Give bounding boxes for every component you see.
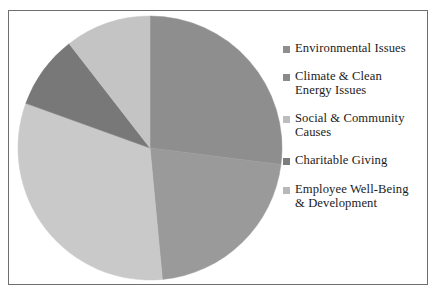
legend-item[interactable]: Social & Community Causes: [283, 111, 433, 139]
legend-item-label: Environmental Issues: [295, 41, 406, 55]
legend-item[interactable]: Climate & Clean Energy Issues: [283, 69, 433, 97]
pie-chart-plot-area: [9, 11, 279, 284]
pie-slice[interactable]: [150, 148, 281, 279]
legend-swatch-icon: [283, 158, 290, 165]
legend-item[interactable]: Charitable Giving: [283, 153, 433, 167]
pie-slice[interactable]: [150, 16, 282, 165]
legend-item[interactable]: Environmental Issues: [283, 41, 433, 55]
legend-swatch-icon: [283, 74, 290, 81]
legend-item-label: Employee Well-Being & Development: [295, 182, 409, 210]
legend-item-label: Social & Community Causes: [295, 111, 405, 139]
legend-swatch-icon: [283, 46, 290, 53]
legend-item-label: Charitable Giving: [295, 153, 387, 167]
chart-legend: Environmental IssuesClimate & Clean Ener…: [283, 41, 433, 224]
legend-swatch-icon: [283, 187, 290, 194]
legend-item[interactable]: Employee Well-Being & Development: [283, 182, 433, 210]
legend-item-label: Climate & Clean Energy Issues: [295, 69, 382, 97]
legend-swatch-icon: [283, 116, 290, 123]
pie-chart-svg: [17, 15, 283, 281]
chart-frame: Environmental IssuesClimate & Clean Ener…: [8, 10, 428, 285]
